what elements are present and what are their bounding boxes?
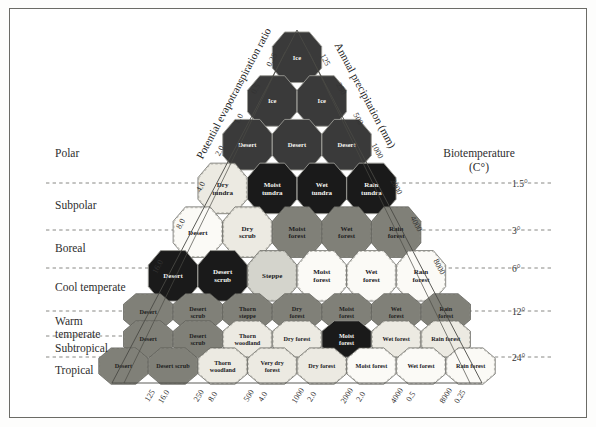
life-zone-label: tundra (311, 189, 332, 197)
life-zone-label: Rain forest (431, 335, 461, 342)
bottom-pet-tick: 2.0 (354, 390, 367, 403)
life-zone-label: Ice (318, 97, 326, 104)
life-zone-label: Wet (341, 225, 354, 233)
life-zone-row: DesertDesertDesert (223, 119, 372, 170)
figure-page: IceIceIceDesertDesertDesertDrytundraMois… (0, 0, 596, 427)
life-zone-row: IceIce (248, 76, 347, 127)
life-zone-label: woodland (235, 339, 261, 346)
life-zone-label: Thorn (239, 332, 256, 339)
life-zone-label: Dry forest (308, 362, 336, 369)
life-zone-label: Wet forest (383, 335, 411, 342)
life-zone-label: Thorn (239, 305, 256, 312)
latitudinal-region-label: Cool temperate (55, 281, 126, 294)
life-zone-label: Desert (115, 362, 133, 369)
biotemperature-title: Biotemperature (443, 147, 515, 160)
bottom-precip-tick: 2000 (339, 386, 355, 405)
life-zone-label: Wet forest (407, 362, 435, 369)
life-zone-label: Ice (268, 97, 276, 104)
bottom-precip-tick: 8000 (438, 386, 454, 405)
latitudinal-region-label: Polar (55, 147, 79, 159)
bottom-pet-tick: 0.25 (452, 388, 467, 405)
bottom-axis-ticks: 12516.02508.05004.010002.020002.040000.5… (143, 386, 468, 405)
life-zone-label: forest (313, 276, 331, 284)
life-zone-label: Dry (217, 181, 229, 189)
life-zone-label: Desert (189, 332, 207, 339)
bottom-pet-tick: 8.0 (206, 390, 219, 403)
latitudinal-region-label: Subpolar (55, 199, 97, 212)
life-zone-label: tundra (262, 189, 283, 197)
life-zone-label: Wet (365, 268, 378, 276)
life-zone-label: forest (339, 339, 355, 346)
latitudinal-region-label: Boreal (55, 242, 86, 254)
life-zone-label: Desert scrub (156, 362, 190, 369)
biotemp-tick: 1.5° (512, 179, 528, 189)
life-zone-label: Desert (288, 141, 307, 148)
latitudinal-region-label: Warm (55, 315, 83, 327)
life-zone-label: Steppe (262, 272, 282, 280)
life-zone-label: Desert (189, 305, 207, 312)
life-zone-label: forest (389, 312, 405, 319)
life-zone-label: forest (363, 276, 381, 284)
life-zone-label: Wet (391, 305, 403, 312)
life-zone-label: Moist (339, 332, 355, 339)
bottom-pet-tick: 4.0 (256, 390, 269, 403)
bottom-pet-tick: 16.0 (156, 388, 171, 405)
holdridge-triangle-chart: IceIceIceDesertDesertDesertDrytundraMois… (0, 0, 596, 427)
life-zone-label: scrub (239, 232, 256, 240)
life-zone-label: Moist (313, 268, 331, 276)
life-zone-label: Moist forest (356, 362, 389, 369)
life-zone-label: forest (338, 232, 356, 240)
life-zone-label: forest (388, 232, 406, 240)
latitudinal-region-label: Tropical (55, 364, 94, 377)
life-zone-label: forest (289, 312, 305, 319)
life-zone-label: scrub (190, 339, 205, 346)
life-zone-label: Thorn (214, 359, 231, 366)
life-zone-row: DrytundraMoisttundraWettundraRaintundra (198, 163, 396, 214)
life-zone-label: scrub (214, 276, 231, 284)
life-zone-label: Dry (242, 225, 254, 233)
life-zone-label: Moist (288, 225, 306, 233)
life-zone-label: Wet (316, 181, 329, 189)
life-zone-label: Moist (339, 305, 355, 312)
bottom-precip-tick: 4000 (389, 386, 405, 405)
biotemp-tick: 6° (512, 264, 521, 274)
bottom-pet-tick: 2.0 (305, 390, 318, 403)
latitudinal-region-label: temperate (55, 328, 100, 341)
latitudinal-region-label: Subtropical (55, 342, 108, 355)
bottom-precip-tick: 250 (192, 388, 206, 403)
life-zone-label: forest (339, 312, 355, 319)
bottom-precip-tick: 500 (242, 388, 256, 403)
latitudinal-region-labels: PolarSubpolarBorealCool temperateWarmtem… (55, 147, 126, 377)
biotemperature-unit: (C°) (469, 161, 489, 174)
life-zone-label: Desert (213, 268, 233, 276)
life-zone-hexagons: IceIceIceDesertDesertDesertDrytundraMois… (99, 32, 496, 384)
life-zone-label: forest (265, 366, 281, 373)
biotemp-tick: 12° (512, 307, 526, 317)
life-zone-label: Dry forest (284, 335, 312, 342)
biotemp-tick: 24° (512, 353, 526, 363)
bottom-precip-tick: 125 (143, 388, 157, 403)
life-zone-label: Dry (292, 305, 303, 312)
life-zone-label: forest (289, 232, 307, 240)
bottom-precip-tick: 1000 (290, 386, 306, 405)
life-zone-row: Ice (272, 32, 321, 83)
bottom-pet-tick: 0.5 (404, 390, 417, 403)
life-zone-label: Desert (140, 335, 158, 342)
life-zone-row: DesertDryscrubMoistforestWetforestRainfo… (173, 207, 421, 258)
life-zone-label: scrub (190, 312, 205, 319)
life-zone-label: steppe (239, 312, 256, 319)
precipitation-tick: 1000 (369, 141, 385, 160)
life-zone-label: Moist (264, 181, 282, 189)
biotemp-tick: 3° (512, 226, 521, 236)
life-zone-label: Ice (293, 54, 301, 61)
life-zone-label: Very dry (261, 359, 285, 366)
life-zone-label: woodland (210, 366, 236, 373)
